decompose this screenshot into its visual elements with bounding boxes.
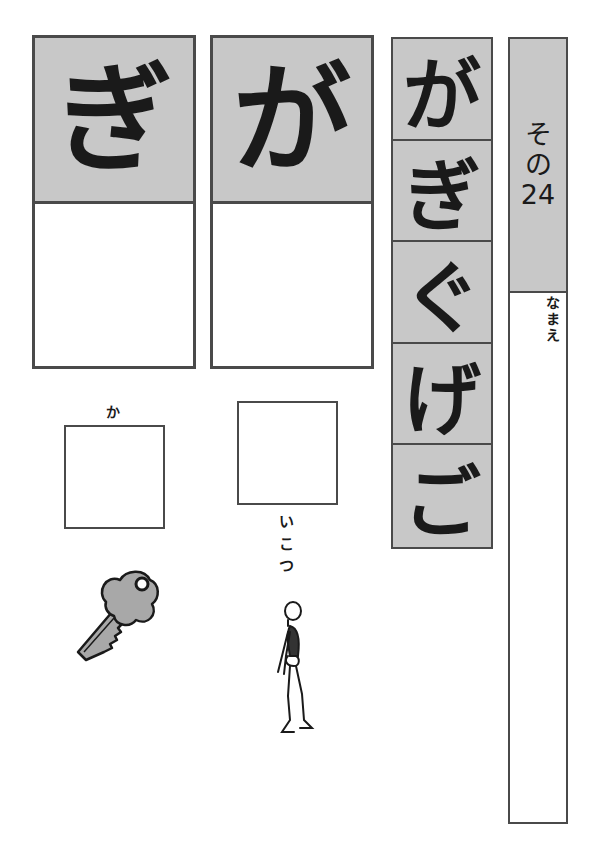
name-label-char: ま (546, 311, 560, 327)
kana-cell: ぎ (393, 141, 491, 243)
practice-card-gi: ぎ (32, 35, 196, 369)
kana-row-strip: が ぎ ぐ げ ご (391, 37, 493, 549)
practice-card-sample: が (213, 38, 371, 204)
kana-cell: げ (393, 344, 491, 446)
name-field[interactable] (510, 293, 544, 822)
skeleton-icon (268, 600, 318, 740)
worksheet-number: そ の 24 (510, 39, 566, 293)
worksheet-number-part: の (525, 150, 552, 180)
sample-character: が (233, 61, 351, 179)
kana-cell: ぐ (393, 242, 491, 344)
name-label-char: え (546, 327, 560, 343)
kana-cell: が (393, 39, 491, 141)
worksheet-number-part: 24 (521, 180, 555, 210)
writing-area[interactable] (35, 204, 193, 366)
kana-cell: ご (393, 445, 491, 547)
writing-area[interactable] (213, 204, 371, 366)
name-label-char: な (546, 295, 560, 311)
practice-card-sample: ぎ (35, 38, 193, 204)
name-label: な ま え (546, 295, 560, 343)
name-column: そ の 24 な ま え (508, 37, 568, 824)
hint-char: こ (279, 534, 294, 556)
hint-char: つ (279, 556, 294, 578)
exercise-2-hint: い こ つ (279, 512, 294, 577)
practice-card-ga: が (210, 35, 374, 369)
exercise-2-answer-box[interactable] (237, 401, 338, 505)
sample-character: ぎ (55, 61, 173, 179)
exercise-1-hint: か (106, 401, 120, 421)
worksheet-number-part: そ (525, 120, 552, 150)
hint-char: い (279, 512, 294, 534)
exercise-1-answer-box[interactable] (64, 425, 165, 529)
key-icon (68, 566, 162, 662)
